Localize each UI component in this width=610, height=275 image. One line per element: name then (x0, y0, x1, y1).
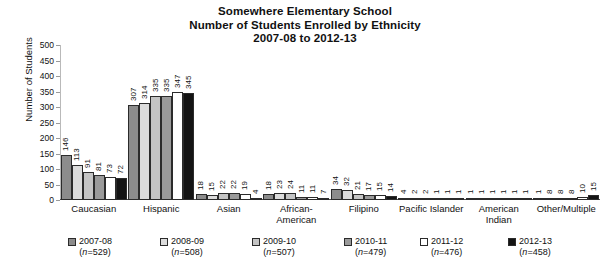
bar[interactable] (555, 198, 566, 200)
bar[interactable] (442, 198, 453, 200)
bar[interactable] (364, 195, 375, 200)
bar[interactable] (398, 198, 409, 200)
bar[interactable] (488, 198, 499, 200)
bar-value-label: 1 (522, 190, 530, 194)
chart-title-line-3: 2007-08 to 2012-13 (0, 32, 610, 46)
bar[interactable] (386, 196, 397, 200)
bar-value-label: 347 (173, 75, 181, 88)
bar-slot: 146 (61, 45, 72, 200)
chart-title: Somewhere Elementary School Number of St… (0, 5, 610, 46)
bar[interactable] (161, 96, 172, 200)
bar[interactable] (94, 175, 105, 200)
bar[interactable] (83, 172, 94, 200)
bar[interactable] (263, 194, 274, 200)
bar-value-label: 34 (332, 177, 340, 186)
legend-item[interactable]: 2009-10(n=507) (252, 236, 296, 258)
bar[interactable] (128, 105, 139, 200)
legend-label: 2010-11 (355, 236, 387, 247)
bar-group: 422111 (398, 45, 466, 200)
bar[interactable] (150, 96, 161, 200)
bar-value-label: 335 (162, 79, 170, 92)
x-axis-category-label: Asian (195, 203, 263, 214)
bar-slot: 2 (420, 45, 431, 200)
bar[interactable] (218, 193, 229, 200)
bar[interactable] (61, 155, 72, 200)
bar-value-label: 1 (511, 190, 519, 194)
legend-item[interactable]: 2012-13(n=458) (508, 236, 552, 258)
bar[interactable] (431, 198, 442, 200)
bar[interactable] (318, 198, 329, 200)
legend-item[interactable]: 2007-08(n=529) (68, 236, 112, 258)
bar[interactable] (588, 195, 599, 200)
y-axis-tick-label: 400 (26, 72, 54, 81)
bar[interactable] (307, 197, 318, 200)
bar[interactable] (251, 198, 262, 200)
bar[interactable] (196, 194, 207, 200)
bar-value-label: 113 (73, 148, 81, 161)
legend-item[interactable]: 2011-12(n=476) (420, 236, 463, 258)
bar-value-label: 10 (578, 184, 586, 193)
bar[interactable] (510, 198, 521, 200)
bar-slot: 1 (499, 45, 510, 200)
bar-slot: 15 (375, 45, 386, 200)
bar-slot: 4 (251, 45, 262, 200)
bar[interactable] (477, 198, 488, 200)
bar-value-label: 11 (297, 184, 305, 192)
bar-value-label: 146 (62, 137, 70, 150)
bar[interactable] (453, 198, 464, 200)
bar-slot: 1 (510, 45, 521, 200)
bar-value-label: 4 (252, 190, 260, 194)
bar[interactable] (296, 197, 307, 200)
bar-slot: 32 (342, 45, 353, 200)
bar[interactable] (331, 189, 342, 200)
bar[interactable] (466, 198, 477, 200)
bar[interactable] (544, 198, 555, 200)
bar[interactable] (240, 194, 251, 200)
bar[interactable] (353, 194, 364, 201)
x-axis-category-label: Pacific Islander (398, 203, 466, 214)
legend-label: 2011-12 (431, 236, 463, 247)
bar-slot: 314 (139, 45, 150, 200)
x-axis-category-label: African-American (263, 203, 331, 225)
bar[interactable] (172, 92, 183, 200)
bar[interactable] (229, 193, 240, 200)
bar[interactable] (285, 193, 296, 200)
bar[interactable] (375, 195, 386, 200)
y-axis-tick-label: 350 (26, 88, 54, 97)
bar[interactable] (566, 198, 577, 200)
bar[interactable] (342, 190, 353, 200)
bar[interactable] (274, 193, 285, 200)
bar-value-label: 22 (230, 180, 238, 189)
legend-item[interactable]: 2010-11(n=479) (344, 236, 387, 258)
bar[interactable] (409, 198, 420, 200)
bar-value-label: 8 (556, 189, 564, 193)
bar-value-label: 81 (95, 162, 103, 171)
x-axis-category-label: Other/Multiple (533, 203, 601, 214)
legend-item[interactable]: 2008-09(n=508) (160, 236, 204, 258)
bar-slot: 23 (274, 45, 285, 200)
bar[interactable] (577, 197, 588, 200)
chart-title-line-1: Somewhere Elementary School (0, 5, 610, 19)
y-axis-tick-label: 100 (26, 165, 54, 174)
legend-count: (n=479) (344, 247, 387, 258)
legend-label: 2012-13 (519, 236, 552, 247)
bar[interactable] (499, 198, 510, 200)
bar[interactable] (139, 103, 150, 200)
bar-group: 18152222194 (195, 45, 263, 200)
bar-group-bars: 307314335335347345 (128, 45, 196, 200)
bar[interactable] (116, 178, 127, 200)
bar-value-label: 73 (106, 164, 114, 173)
bar[interactable] (183, 93, 194, 200)
bar-value-label: 345 (184, 76, 192, 89)
bar-slot: 17 (364, 45, 375, 200)
legend-count: (n=458) (508, 247, 552, 258)
bar[interactable] (105, 177, 116, 200)
bar-group-bars: 111111 (465, 45, 533, 200)
bar[interactable] (521, 198, 532, 200)
bar[interactable] (207, 195, 218, 200)
bar[interactable] (533, 198, 544, 200)
bar[interactable] (72, 165, 83, 200)
bar[interactable] (420, 198, 431, 200)
bar-slot: 335 (150, 45, 161, 200)
bar-slot: 19 (240, 45, 251, 200)
